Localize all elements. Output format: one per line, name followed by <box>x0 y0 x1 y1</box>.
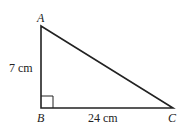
right-angle-marker <box>41 96 53 108</box>
vertex-label-a: A <box>36 11 45 25</box>
side-label-ab: 7 cm <box>9 61 33 75</box>
side-label-bc: 24 cm <box>88 111 118 125</box>
vertex-label-c: C <box>168 111 177 125</box>
triangle-abc <box>41 26 173 108</box>
vertex-label-b: B <box>37 111 45 125</box>
triangle-diagram: A B C 7 cm 24 cm <box>0 0 188 133</box>
